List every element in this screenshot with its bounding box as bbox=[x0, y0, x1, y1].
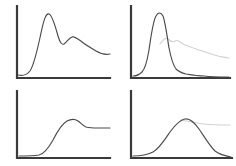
panel-top-left-plot bbox=[0, 0, 118, 83]
curve-primary-bottom-left bbox=[19, 120, 110, 157]
axis-lines-top-left bbox=[17, 6, 110, 78]
curve-primary-top-right bbox=[133, 13, 229, 77]
curve-secondary-bottom-right bbox=[181, 120, 230, 125]
curve-primary-top-left bbox=[18, 14, 110, 76]
panel-top-right bbox=[118, 0, 236, 83]
panel-bottom-left bbox=[0, 83, 118, 166]
four-panel-figure bbox=[0, 0, 236, 166]
panel-bottom-right bbox=[118, 83, 236, 166]
panel-top-right-plot bbox=[118, 0, 236, 83]
panel-top-left bbox=[0, 0, 118, 83]
panel-bottom-right-plot bbox=[118, 83, 236, 166]
panel-bottom-left-plot bbox=[0, 83, 118, 166]
